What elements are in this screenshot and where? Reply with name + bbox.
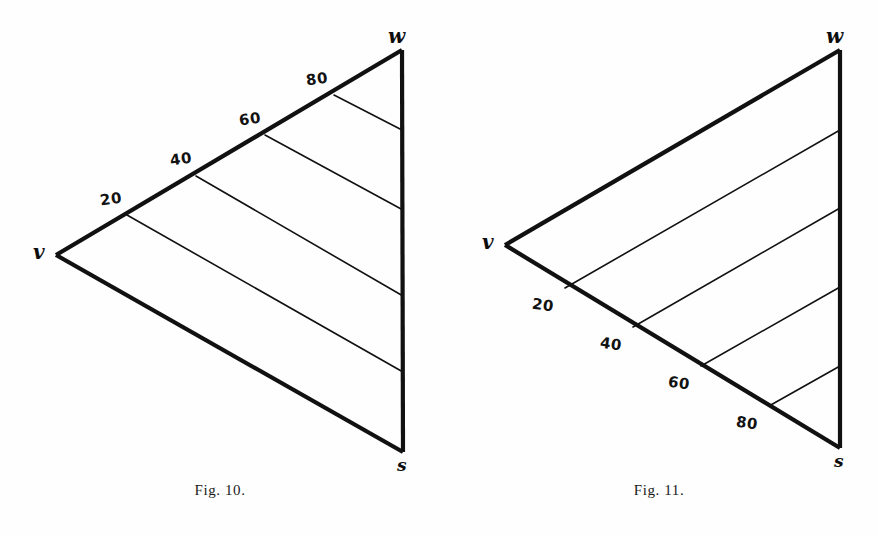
fig11-tick-label-20: 20 — [531, 295, 555, 316]
fig11-edge-v-s — [505, 245, 840, 448]
fig10-tick-label-40: 40 — [169, 149, 193, 170]
figure-10-caption-wrap: Fig. 10. — [0, 482, 440, 499]
fig11-tick-label-80: 80 — [735, 413, 759, 434]
fig10-chord-80 — [334, 95, 402, 130]
fig11-tick-label-40: 40 — [599, 334, 623, 355]
fig11-chord-60 — [701, 287, 840, 366]
fig11-chord-40 — [633, 208, 840, 327]
figure-page: v w s 20 40 60 80 Fig. 10. v w s — [0, 0, 878, 536]
fig10-chord-60 — [265, 135, 403, 210]
fig10-edge-v-s — [56, 255, 403, 452]
fig10-vertex-label-s: s — [397, 455, 407, 475]
fig11-vertex-label-v: v — [482, 230, 494, 254]
fig10-edge-v-w — [56, 50, 402, 255]
figure-11: v w s 20 40 60 80 Fig. 11. — [440, 0, 878, 536]
fig10-edge-w-s — [402, 50, 403, 452]
fig10-tick-label-20: 20 — [99, 189, 123, 210]
fig11-vertex-label-s: s — [834, 451, 844, 471]
fig10-vertex-label-v: v — [33, 240, 45, 264]
figure-11-drawing — [440, 0, 878, 536]
figure-10-drawing — [0, 0, 440, 536]
fig11-edge-v-w — [505, 50, 840, 245]
fig10-chord-20 — [127, 215, 403, 372]
figure-10-caption: Fig. 10. — [194, 482, 245, 499]
fig10-tick-label-80: 80 — [305, 69, 329, 90]
fig10-chords — [127, 95, 403, 372]
figure-11-caption-wrap: Fig. 11. — [440, 482, 878, 499]
figure-11-caption: Fig. 11. — [634, 482, 685, 499]
fig10-tick-label-60: 60 — [238, 109, 262, 130]
fig10-outline — [56, 50, 403, 452]
fig10-vertex-label-w: w — [388, 24, 405, 48]
fig11-chord-20 — [565, 130, 840, 288]
fig11-vertex-label-w: w — [826, 24, 843, 48]
fig11-tick-label-60: 60 — [667, 373, 691, 394]
figure-10: v w s 20 40 60 80 Fig. 10. — [0, 0, 440, 536]
fig11-chord-80 — [769, 366, 840, 406]
